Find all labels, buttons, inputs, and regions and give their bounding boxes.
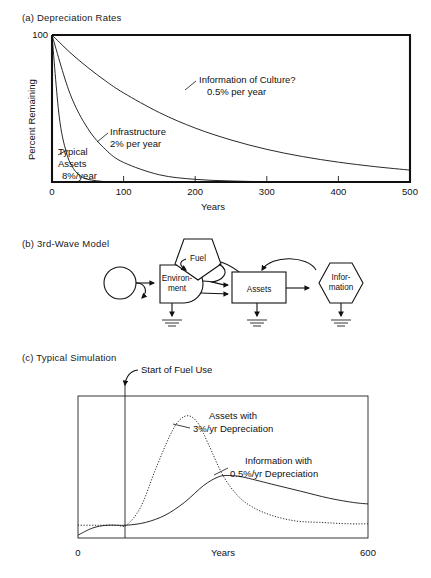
panel-a-title: (a) Depreciation Rates: [22, 12, 121, 23]
panel-a-chart: 100 Percent Remaining 0 100 200 300 400 …: [0, 0, 431, 578]
panel-a-curve-typical-assets: [52, 35, 410, 182]
node-information: [319, 263, 363, 303]
panel-a-xtick-500: 500: [402, 186, 418, 197]
panel-a-annot-infrastructure-line2: 2% per year: [110, 138, 161, 149]
panel-c-curve-assets: [78, 416, 368, 527]
panel-a-annot-information-line2: 0.5% per year: [207, 86, 266, 97]
panel-a-leader-information: [185, 81, 196, 90]
panel-a-curve-infrastructure: [52, 35, 410, 182]
flow-fuel-to-assets: [221, 262, 258, 281]
panel-a-curve-information: [52, 35, 410, 170]
node-fuel: [175, 239, 221, 280]
panel-a-xtick-200: 200: [187, 186, 203, 197]
flow-fuel-to-environment: [181, 259, 186, 270]
flow-environment-to-assets-lower: [201, 293, 228, 294]
node-environment: [160, 265, 203, 303]
panel-a-xtick-100: 100: [116, 186, 132, 197]
node-assets-label: Assets: [247, 285, 272, 294]
panel-a-xtick-400: 400: [330, 186, 346, 197]
panel-c-fuel-start-marker: [125, 370, 138, 385]
panel-a-leader-infrastructure: [97, 133, 108, 142]
panel-c-chart: Start of Fuel Use Assets with 3%/yr Depr…: [0, 0, 431, 578]
node-environment-label-line1: Environ-: [162, 274, 193, 283]
flow-environment-to-assets-upper: [203, 281, 228, 285]
node-assets: [232, 272, 286, 303]
panel-a-xtick-0: 0: [49, 186, 54, 197]
panel-c-leader-information: [214, 468, 228, 475]
panel-a-plot-frame: [52, 35, 410, 182]
panel-a-ytick-100: 100: [32, 29, 48, 40]
node-energy-source: [104, 267, 136, 299]
panel-a-x-axis-label: Years: [201, 201, 225, 212]
panel-b-title: (b) 3rd-Wave Model: [22, 238, 109, 249]
panel-c-xtick-600: 600: [360, 547, 376, 558]
panel-a-leader-typical-assets: [58, 150, 67, 155]
panel-c-plot-frame: [78, 396, 368, 538]
panel-a-xtick-300: 300: [259, 186, 275, 197]
flow-fuel-arc-a: [211, 264, 225, 282]
panel-a-annot-information-line1: Information of Culture?: [199, 74, 296, 85]
panel-c-annot-assets-line1: Assets with: [209, 410, 257, 421]
panel-a-annot-assets-line2: Assets: [58, 158, 87, 169]
panel-a-annot-assets-line3: 8%/year: [62, 170, 97, 181]
flow-information-feedback-to-assets: [262, 259, 316, 270]
panel-c-annot-information-line1: Information with: [245, 455, 312, 466]
panel-c-title: (c) Typical Simulation: [22, 352, 117, 363]
panel-c-leader-assets: [173, 424, 190, 428]
panel-b-diagram: Environ- ment Fuel Assets Infor- mation: [0, 0, 431, 578]
heat-sink-environment: [162, 303, 182, 326]
node-information-label-line1: Infor-: [331, 273, 350, 282]
heat-sink-assets: [247, 303, 267, 326]
panel-c-curve-information: [78, 476, 368, 536]
flow-source-down: [136, 283, 145, 298]
node-information-label-line2: mation: [329, 283, 354, 292]
panel-c-annot-assets-line2: 3%/yr Depreciation: [193, 423, 273, 434]
panel-c-x-axis-label: Years: [211, 547, 235, 558]
node-fuel-label: Fuel: [190, 254, 206, 263]
panel-a-annot-infrastructure-line1: Infrastructure: [110, 126, 166, 137]
node-environment-label-line2: ment: [168, 284, 187, 293]
panel-a-y-axis-label: Percent Remaining: [26, 79, 37, 160]
panel-a-x-ticks: [52, 176, 410, 182]
panel-c-annot-information-line2: 0.5%/yr Depreciation: [230, 468, 318, 479]
heat-sink-information: [331, 303, 351, 326]
panel-c-xtick-0: 0: [75, 547, 80, 558]
panel-c-fuel-start-label: Start of Fuel Use: [141, 364, 212, 375]
panel-a-annot-assets-line1: Typical: [58, 146, 88, 157]
